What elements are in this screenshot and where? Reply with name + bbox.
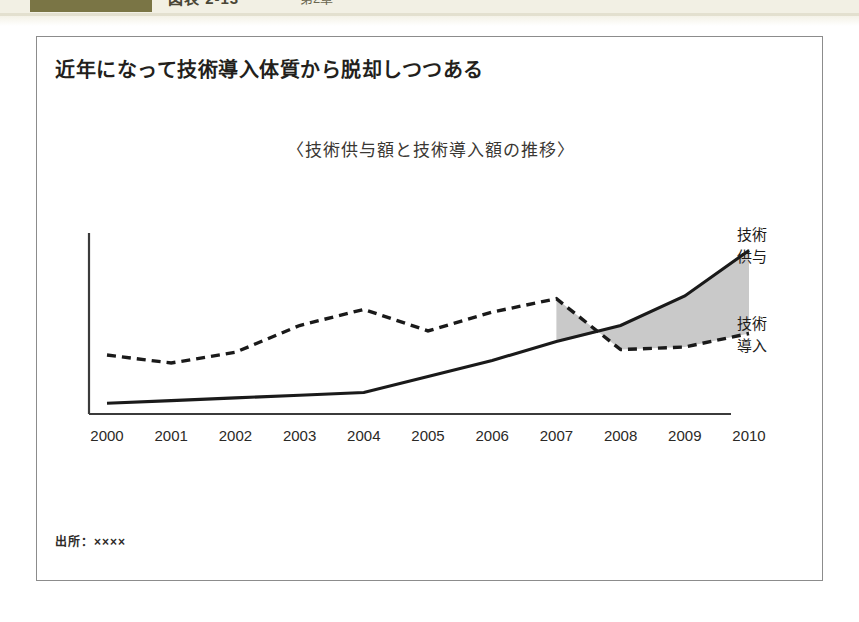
clipped-header-subtitle: 第2章 bbox=[300, 0, 333, 7]
series-label-tech-introduction-line1: 技術 bbox=[737, 315, 767, 332]
header-fade bbox=[0, 16, 859, 26]
x-axis-tick-2002: 2002 bbox=[219, 427, 252, 444]
source-note: 出所：×××× bbox=[55, 532, 126, 549]
x-axis-tick-2010: 2010 bbox=[732, 427, 765, 444]
line-chart: 2000200120022003200420052006200720082009… bbox=[37, 37, 824, 582]
clipped-header-title: 図表 2-13 bbox=[168, 0, 239, 8]
x-axis-tick-labels: 2000200120022003200420052006200720082009… bbox=[90, 427, 765, 444]
x-axis-tick-2000: 2000 bbox=[90, 427, 123, 444]
x-axis-tick-2007: 2007 bbox=[540, 427, 573, 444]
x-axis-tick-2004: 2004 bbox=[347, 427, 380, 444]
series-label-tech-introduction-line2: 導入 bbox=[737, 337, 767, 354]
chapter-tab-swatch bbox=[30, 0, 152, 12]
page-header-strip: 図表 2-13 第2章 bbox=[0, 0, 859, 26]
exhibit-frame: 近年になって技術導入体質から脱却しつつある 〈技術供与額と技術導入額の推移〉 2… bbox=[36, 36, 823, 581]
x-axis-tick-2003: 2003 bbox=[283, 427, 316, 444]
x-axis-tick-2001: 2001 bbox=[155, 427, 188, 444]
x-axis-tick-2008: 2008 bbox=[604, 427, 637, 444]
x-axis-tick-2005: 2005 bbox=[411, 427, 444, 444]
x-axis-tick-2009: 2009 bbox=[668, 427, 701, 444]
series-label-tech-supply-line1: 技術 bbox=[737, 226, 767, 243]
x-axis-tick-2006: 2006 bbox=[476, 427, 509, 444]
series-label-tech-supply-line2: 供与 bbox=[737, 248, 767, 265]
